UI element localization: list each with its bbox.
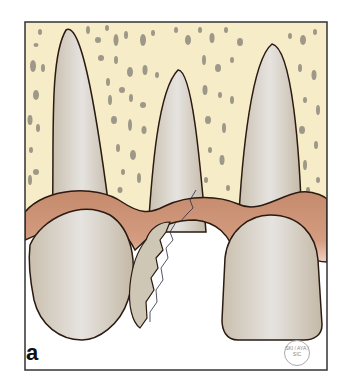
dental-illustration: [0, 0, 337, 391]
panel-label: a: [26, 340, 38, 366]
tooth-crown-left: [29, 210, 133, 340]
tooth-crown-right: [222, 215, 322, 340]
publisher-stamp: SKI / AYA / SIC: [284, 340, 310, 366]
